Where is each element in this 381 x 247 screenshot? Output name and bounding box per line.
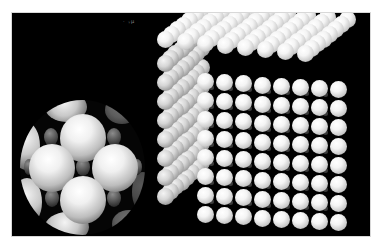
lattice-sphere (197, 168, 214, 185)
lattice-sphere (292, 155, 309, 172)
lattice-sphere (273, 173, 290, 190)
lattice-sphere (254, 172, 271, 189)
lattice-sphere (292, 98, 309, 115)
lattice-sphere (330, 195, 347, 212)
lattice-sphere (157, 93, 174, 110)
lattice-sphere (157, 150, 174, 167)
lattice-sphere (237, 39, 254, 56)
lattice-sphere (330, 119, 347, 136)
spherical-cluster-model (20, 100, 145, 235)
lattice-sphere (157, 131, 174, 148)
edge-sphere (105, 100, 139, 124)
lattice-sphere (254, 134, 271, 151)
lattice-sphere (197, 206, 214, 223)
lattice-sphere (292, 79, 309, 96)
lattice-sphere (292, 117, 309, 134)
lattice-sphere (292, 174, 309, 191)
lattice-sphere (197, 35, 214, 52)
lattice-sphere (273, 211, 290, 228)
lattice-sphere (197, 92, 214, 109)
lattice-sphere (292, 136, 309, 153)
caption-artifact: · ᵧµ (123, 18, 135, 24)
lattice-sphere (197, 111, 214, 128)
lattice-sphere (273, 97, 290, 114)
lattice-sphere (157, 55, 174, 72)
cubic-lattice-model (155, 15, 365, 230)
lattice-sphere (277, 43, 294, 60)
lattice-sphere (330, 100, 347, 117)
lattice-sphere (254, 210, 271, 227)
lattice-sphere (297, 45, 314, 62)
lattice-sphere (311, 213, 328, 230)
lattice-sphere (292, 193, 309, 210)
lattice-sphere (177, 33, 194, 50)
lattice-sphere (330, 176, 347, 193)
lattice-sphere (235, 208, 252, 225)
lattice-sphere (292, 212, 309, 229)
lattice-sphere (257, 41, 274, 58)
lattice-sphere (157, 112, 174, 129)
large-sphere (60, 176, 106, 224)
lattice-sphere (197, 130, 214, 147)
lattice-sphere (197, 187, 214, 204)
lattice-sphere (217, 37, 234, 54)
lattice-sphere (254, 153, 271, 170)
lattice-sphere (330, 157, 347, 174)
lattice-sphere (273, 135, 290, 152)
lattice-sphere (157, 74, 174, 91)
lattice-sphere (330, 214, 347, 231)
lattice-sphere (197, 73, 214, 90)
image-frame: · ᵧµ (12, 13, 370, 236)
lattice-sphere (254, 77, 271, 94)
lattice-sphere (273, 116, 290, 133)
lattice-sphere (273, 154, 290, 171)
lattice-sphere (254, 96, 271, 113)
lattice-sphere (197, 149, 214, 166)
lattice-sphere (330, 138, 347, 155)
lattice-sphere (273, 78, 290, 95)
lattice-sphere (254, 115, 271, 132)
lattice-sphere (157, 169, 174, 186)
edge-sphere (112, 210, 145, 235)
lattice-sphere (157, 31, 174, 48)
lattice-sphere (330, 81, 347, 98)
lattice-sphere (273, 192, 290, 209)
lattice-sphere (254, 191, 271, 208)
lattice-sphere (216, 207, 233, 224)
lattice-sphere (157, 188, 174, 205)
